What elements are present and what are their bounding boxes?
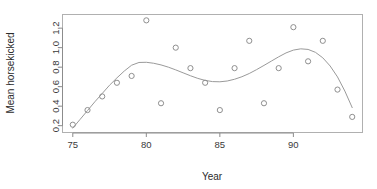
y-tick-label-0.4: 0.4 [50, 100, 61, 113]
x-tick-label-80: 80 [141, 139, 152, 150]
y-tick-label-1.0: 1.0 [50, 41, 61, 54]
scatter-plot: 0.20.40.60.81.01.2 75808590 Year Mean ho… [0, 0, 377, 189]
y-tick-label-0.6: 0.6 [50, 80, 61, 93]
x-tick-label-90: 90 [288, 139, 299, 150]
x-tick-label-85: 85 [215, 139, 226, 150]
chart-container: 0.20.40.60.81.01.2 75808590 Year Mean ho… [0, 0, 377, 189]
y-tick-label-0.8: 0.8 [50, 61, 61, 74]
x-tick-label-75: 75 [68, 139, 79, 150]
y-axis-title: Mean horsekicked [5, 32, 16, 113]
y-tick-label-0.2: 0.2 [50, 119, 61, 132]
y-tick-label-1.2: 1.2 [50, 22, 61, 35]
x-axis-title: Year [202, 171, 223, 182]
